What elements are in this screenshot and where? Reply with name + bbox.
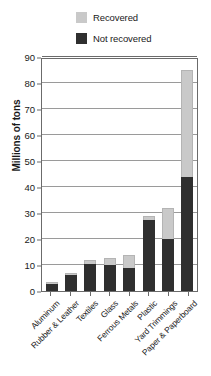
x-axis-labels: AluminumRubber & LeatherTextilesGlassFer… xyxy=(41,297,198,376)
x-axis-tick-mark xyxy=(188,292,189,296)
x-axis-tick-mark xyxy=(109,292,110,296)
bar-segment-recovered xyxy=(123,255,135,268)
bar-column[interactable] xyxy=(162,59,174,291)
x-axis-label-slot: Paper & Paperboard xyxy=(182,297,194,376)
x-axis-tick-mark xyxy=(168,292,169,296)
bar-segment-recovered xyxy=(181,70,193,177)
x-axis-label-slot: Rubber & Leather xyxy=(64,297,76,376)
bar-column[interactable] xyxy=(181,59,193,291)
x-axis-tick-mark xyxy=(148,292,149,296)
waste-recovery-stacked-bar-chart: Recovered Not recovered Millions of tons… xyxy=(0,0,211,376)
bar-segment-recovered xyxy=(104,258,116,265)
bar-segment-not-recovered xyxy=(143,220,155,292)
bar-segment-not-recovered xyxy=(84,264,96,291)
y-axis-tick-label: 30 xyxy=(24,209,35,219)
y-axis-tick-label: 90 xyxy=(24,53,35,63)
y-axis-tick-label: 10 xyxy=(24,261,35,271)
bar-segment-not-recovered xyxy=(162,239,174,291)
legend-label-not-recovered: Not recovered xyxy=(93,33,151,44)
x-axis-tick-mark xyxy=(50,292,51,296)
bar-segment-not-recovered xyxy=(123,268,135,291)
x-axis-tick-mark xyxy=(70,292,71,296)
bar-segment-recovered xyxy=(162,208,174,239)
y-axis-ticks: 0102030405060708090 xyxy=(0,58,39,292)
bar-series-group xyxy=(42,59,197,291)
plot-area xyxy=(41,58,198,292)
y-axis-tick-label: 40 xyxy=(24,183,35,193)
legend-swatch-not-recovered xyxy=(76,33,87,44)
bar-column[interactable] xyxy=(104,59,116,291)
bar-segment-not-recovered xyxy=(181,177,193,291)
bar-segment-not-recovered xyxy=(46,284,58,291)
y-axis-tick-label: 60 xyxy=(24,131,35,141)
bar-column[interactable] xyxy=(46,59,58,291)
legend-label-recovered: Recovered xyxy=(93,12,138,23)
bar-column[interactable] xyxy=(84,59,96,291)
y-axis-tick-label: 50 xyxy=(24,157,35,167)
y-axis-tick-label: 70 xyxy=(24,105,35,115)
x-axis-tick-mark xyxy=(90,292,91,296)
bar-segment-not-recovered xyxy=(65,275,77,291)
bar-segment-not-recovered xyxy=(104,265,116,291)
y-axis-tick-label: 80 xyxy=(24,79,35,89)
legend-item-not-recovered: Not recovered xyxy=(76,30,206,47)
chart-legend: Recovered Not recovered xyxy=(76,9,206,51)
y-axis-tick-label: 20 xyxy=(24,235,35,245)
legend-swatch-recovered xyxy=(76,12,87,23)
y-axis-tick-label: 0 xyxy=(30,287,35,297)
bar-column[interactable] xyxy=(65,59,77,291)
legend-item-recovered: Recovered xyxy=(76,9,206,26)
bar-column[interactable] xyxy=(143,59,155,291)
gridline xyxy=(42,56,197,57)
bar-column[interactable] xyxy=(123,59,135,291)
x-axis-tick-mark xyxy=(129,292,130,296)
